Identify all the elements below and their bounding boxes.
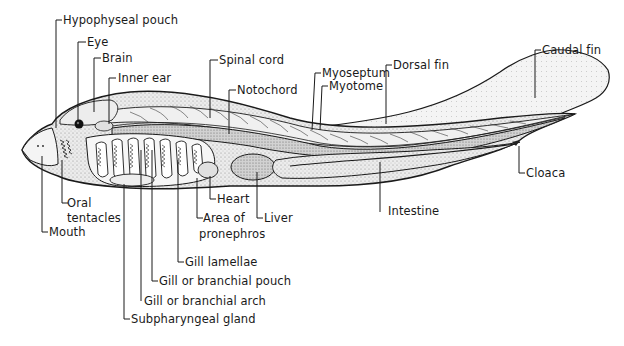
subpharyngeal-gland [110, 174, 154, 186]
label-mouth: Mouth [49, 226, 86, 239]
label-oral-tentacles-line2: tentacles [67, 212, 121, 225]
label-hypophyseal-pouch: Hypophyseal pouch [63, 14, 178, 27]
label-myotome: Myotome [329, 80, 383, 93]
label-liver: Liver [264, 212, 293, 225]
label-gill-arch: Gill or branchial arch [144, 295, 266, 308]
label-dorsal-fin: Dorsal fin [393, 59, 449, 72]
label-gill-lamellae: Gill lamellae [185, 256, 257, 269]
label-brain: Brain [102, 52, 133, 65]
label-inner-ear: Inner ear [118, 72, 171, 85]
label-intestine: Intestine [388, 205, 439, 218]
label-oral-tentacles-line1: Oral [67, 197, 91, 210]
label-heart: Heart [217, 193, 250, 206]
label-gill-pouch: Gill or branchial pouch [159, 275, 291, 288]
inner-ear [95, 121, 113, 131]
label-caudal-fin: Caudal fin [542, 44, 601, 57]
label-cloaca: Cloaca [526, 167, 565, 180]
heart [198, 162, 218, 178]
liver [231, 154, 275, 180]
eye [75, 120, 84, 129]
oral-hood [22, 128, 58, 166]
label-area-of-pronephros-line1: Area of [203, 212, 245, 225]
label-eye: Eye [87, 36, 108, 49]
label-notochord: Notochord [237, 84, 298, 97]
label-subpharyngeal-gland: Subpharyngeal gland [131, 313, 256, 326]
label-area-of-pronephros-line2: pronephros [199, 228, 265, 241]
label-spinal-cord: Spinal cord [219, 54, 284, 67]
